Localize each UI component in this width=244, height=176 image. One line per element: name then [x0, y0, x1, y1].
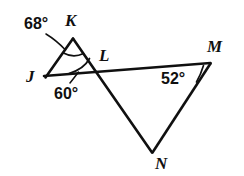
angle-leader-68 — [46, 34, 66, 50]
angle-label-68: 68° — [24, 16, 48, 32]
angle-label-52: 52° — [161, 71, 185, 87]
segment-kn — [73, 39, 152, 153]
vertex-label-m: M — [207, 38, 222, 55]
vertex-label-n: N — [155, 155, 167, 172]
vertex-label-k: K — [65, 12, 76, 29]
angle-arc-k — [64, 53, 84, 56]
vertex-label-l: L — [99, 47, 109, 64]
geometry-figure: J K L M N 68° 60° 52° — [0, 0, 244, 176]
vertex-label-j: J — [26, 68, 35, 85]
angle-arc-l — [69, 59, 90, 74]
angle-label-60: 60° — [54, 86, 78, 102]
